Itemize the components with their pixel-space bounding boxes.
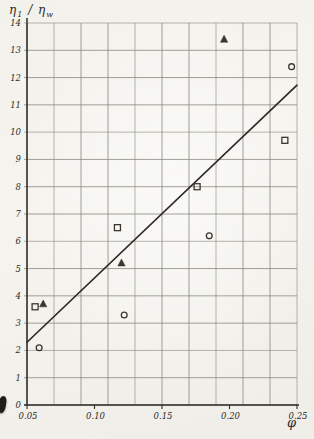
triangle-marker	[118, 259, 125, 266]
square-marker	[114, 225, 120, 231]
circle-marker	[206, 233, 212, 239]
scanned-figure-page: η1 / ηw 0.050.100.150.200.25012345678910…	[0, 0, 314, 439]
square-marker	[32, 304, 38, 310]
y-tick-label: 2	[15, 345, 21, 355]
y-tick-label: 6	[16, 236, 22, 246]
y-tick-label: 0	[16, 400, 22, 410]
triangle-marker	[221, 35, 228, 42]
x-tick-label: 0.15	[154, 411, 173, 421]
axes	[24, 18, 299, 405]
circle-marker	[121, 312, 127, 318]
data-points	[32, 35, 294, 350]
y-tick-label: 4	[15, 291, 21, 301]
y-tick-label: 8	[16, 182, 22, 192]
viscosity-vs-concentration-plot: 0.050.100.150.200.2501234567891011121314	[0, 0, 314, 439]
square-marker	[282, 137, 288, 143]
y-tick-label: 11	[10, 100, 21, 110]
x-axis-title: φ	[287, 415, 296, 430]
y-tick-label: 7	[16, 209, 22, 219]
x-tick-label: 0.05	[19, 411, 38, 421]
circle-marker	[36, 345, 42, 351]
y-tick-label: 3	[16, 318, 21, 328]
y-tick-label: 14	[10, 18, 21, 28]
y-tick-label: 5	[16, 264, 21, 274]
triangle-marker	[40, 300, 47, 307]
x-tick-label: 0.10	[86, 411, 106, 421]
y-tick-label: 12	[10, 73, 21, 83]
x-tick-label: 0.20	[221, 411, 241, 421]
y-tick-label: 10	[10, 127, 21, 137]
y-tick-label: 1	[16, 373, 21, 383]
circle-marker	[289, 64, 295, 70]
y-tick-label: 9	[16, 154, 22, 164]
y-tick-label: 13	[10, 45, 21, 55]
tick-labels: 0.050.100.150.200.2501234567891011121314	[10, 18, 307, 421]
